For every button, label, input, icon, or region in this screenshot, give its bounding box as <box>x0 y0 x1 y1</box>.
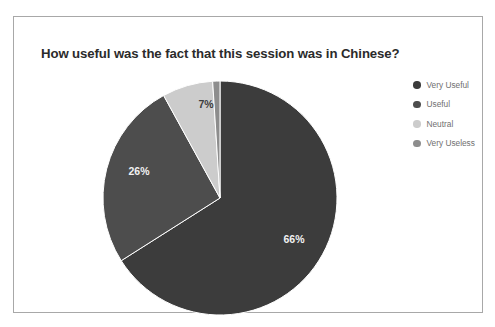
legend-swatch-icon <box>413 140 421 148</box>
chart-legend: Very Useful Useful Neutral Very Useless <box>413 75 493 153</box>
legend-swatch-icon <box>413 101 421 109</box>
chart-frame: How useful was the fact that this sessio… <box>13 16 483 313</box>
legend-item-useful[interactable]: Useful <box>413 95 493 115</box>
legend-label: Neutral <box>427 120 454 128</box>
legend-item-very-useful[interactable]: Very Useful <box>413 75 493 95</box>
slice-label-very-useful: 66% <box>283 233 305 245</box>
legend-item-very-useless[interactable]: Very Useless <box>413 134 493 154</box>
pie-slice-group <box>103 81 337 315</box>
screenshot-canvas: How useful was the fact that this sessio… <box>0 0 495 327</box>
slice-label-useful: 26% <box>128 165 150 177</box>
page-title: How useful was the fact that this sessio… <box>41 46 400 61</box>
pie-svg: 66% 26% 7% <box>99 75 347 323</box>
legend-label: Useful <box>427 100 451 108</box>
pie-chart: 66% 26% 7% <box>99 75 347 323</box>
legend-swatch-icon <box>413 81 421 89</box>
slice-label-neutral: 7% <box>198 98 214 110</box>
legend-item-neutral[interactable]: Neutral <box>413 114 493 134</box>
legend-swatch-icon <box>413 120 421 128</box>
legend-label: Very Useless <box>427 139 475 147</box>
legend-label: Very Useful <box>427 81 469 89</box>
